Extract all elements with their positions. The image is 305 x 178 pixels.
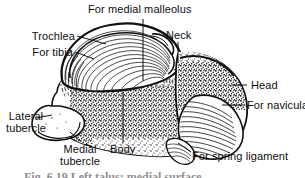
label-neck: Neck [166,29,191,41]
anatomy-figure: For medial malleolus Trochlea For tibia … [0,0,305,178]
label-lateral-tubercle-line2: tubercle [6,122,46,134]
label-lateral-tubercle: Lateral tubercle [0,110,52,134]
label-medial-tubercle-line2: tubercle [60,155,100,167]
label-trochlea: Trochlea [5,30,75,42]
label-medial-tubercle-line1: Medial [63,143,96,155]
label-head: Head [251,79,278,91]
label-for-navicular: For navicular [247,99,305,111]
figure-caption: Fig. 6.19 Left talus: medial surface [24,170,202,178]
label-for-spring-ligament: For spring ligament [192,150,288,162]
label-for-medial-malleolus: For medial malleolus [88,3,191,15]
label-lateral-tubercle-line1: Lateral [9,110,43,122]
label-medial-tubercle: Medial tubercle [54,143,106,167]
label-body: Body [110,143,135,155]
label-for-tibia: For tibia [5,46,73,58]
